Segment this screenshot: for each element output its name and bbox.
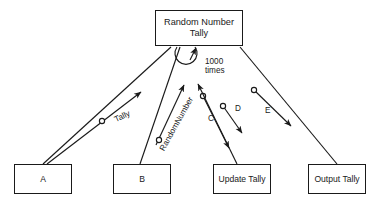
edge-update-to-top <box>198 84 237 164</box>
node-label: A <box>40 174 46 185</box>
node-output-tally[interactable]: Output Tally <box>308 164 366 194</box>
edge-self-loop-arrowhead <box>190 48 196 60</box>
node-label: Random Number Tally <box>164 17 234 40</box>
node-a[interactable]: A <box>14 164 72 194</box>
node-label: Update Tally <box>218 174 265 185</box>
edge-label-d: D <box>235 104 241 113</box>
node-b[interactable]: B <box>113 164 171 194</box>
edge-a-to-top <box>47 92 141 164</box>
diagram-canvas: Random Number Tally A B Update Tally Out… <box>0 0 388 208</box>
edge-marker-tally <box>99 118 104 123</box>
edge-e <box>254 90 291 126</box>
edge-label-1000-times: 1000 times <box>205 57 225 76</box>
edge-marker-e <box>251 87 256 92</box>
edge-label-c: C <box>208 114 214 123</box>
lifeline-output-to-top <box>240 47 337 164</box>
node-label: B <box>139 174 145 185</box>
node-label: Output Tally <box>314 174 359 185</box>
node-update-tally[interactable]: Update Tally <box>213 164 271 194</box>
lifeline-a-to-top <box>43 47 171 164</box>
node-random-number-tally[interactable]: Random Number Tally <box>155 10 243 46</box>
edge-label-e: E <box>265 106 270 115</box>
edge-marker-d <box>220 103 225 108</box>
edge-self-loop-1000-times <box>175 47 197 64</box>
